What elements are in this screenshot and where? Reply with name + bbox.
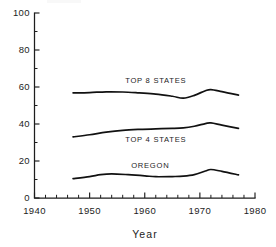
x-tick-label: 1950 xyxy=(78,205,101,216)
y-tick-label: 100 xyxy=(13,7,30,18)
y-tick-label: 0 xyxy=(24,192,30,203)
y-tick-label: 40 xyxy=(19,118,30,129)
x-axis-title: Year xyxy=(132,228,158,240)
axis-ticks xyxy=(35,13,256,198)
y-tick-label: 80 xyxy=(19,44,30,55)
line-chart: 020406080100 19401950196019701980 TOP 8 … xyxy=(0,0,276,247)
series-inline-labels: TOP 8 STATESTOP 4 STATESOREGON xyxy=(125,76,186,170)
x-tick-label: 1940 xyxy=(23,205,46,216)
y-tick-label: 20 xyxy=(19,155,30,166)
x-axis-tick-labels: 19401950196019701980 xyxy=(23,205,266,216)
series-label: TOP 8 STATES xyxy=(125,76,186,85)
x-tick-label: 1960 xyxy=(133,205,156,216)
series-label: OREGON xyxy=(131,161,169,170)
chart-figure: 020406080100 19401950196019701980 TOP 8 … xyxy=(0,0,276,247)
y-tick-label: 60 xyxy=(19,81,30,92)
x-tick-label: 1980 xyxy=(244,205,267,216)
data-line-series xyxy=(73,90,238,99)
axis-spines xyxy=(35,13,256,198)
data-line-series xyxy=(73,170,238,179)
x-tick-label: 1970 xyxy=(189,205,212,216)
y-axis-tick-labels: 020406080100 xyxy=(13,7,30,203)
series-label: TOP 4 STATES xyxy=(125,135,186,144)
